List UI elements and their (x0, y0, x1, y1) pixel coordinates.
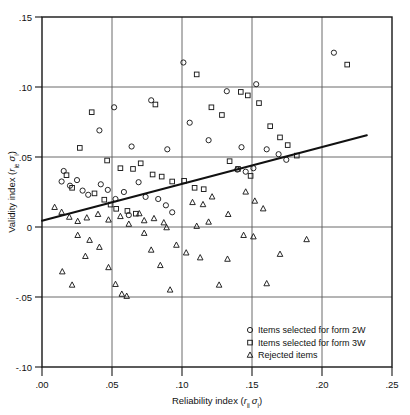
y-axis-tick-labels: -.10-.050.05.10.15 (16, 12, 32, 373)
y-tick-label: -.10 (16, 362, 32, 373)
data-point-circle (143, 194, 148, 199)
data-point-square (77, 146, 82, 151)
data-point-circle (165, 147, 170, 152)
data-point-square (227, 159, 232, 164)
y-tick-label: .05 (19, 152, 32, 163)
data-point-triangle (225, 256, 231, 261)
data-point-circle (97, 128, 102, 133)
x-tick-label: .10 (175, 379, 188, 390)
y-tick-label: .10 (19, 82, 32, 93)
data-point-triangle (106, 217, 112, 222)
data-point-square (153, 102, 158, 107)
data-point-triangle (87, 237, 93, 242)
data-point-square (92, 191, 97, 196)
data-point-triangle (174, 242, 180, 247)
data-point-triangle (158, 262, 164, 267)
data-point-circle (224, 89, 229, 94)
data-point-square (201, 187, 206, 192)
data-point-square (192, 185, 197, 190)
data-point-triangle (209, 194, 215, 199)
data-point-triangle (148, 247, 154, 252)
data-point-triangle (161, 220, 167, 225)
data-point-circle (74, 178, 79, 183)
data-point-circle (206, 138, 211, 143)
data-point-triangle (75, 232, 81, 237)
data-point-triangle (83, 253, 89, 258)
data-point-circle (239, 145, 244, 150)
x-tick-label: .15 (245, 379, 258, 390)
plot-frame (42, 17, 392, 367)
data-point-triangle (260, 206, 266, 211)
data-point-square (194, 72, 199, 77)
data-point-circle (276, 152, 281, 157)
data-point-triangle (119, 291, 125, 296)
y-tick-label: .15 (19, 12, 32, 23)
series-square (64, 62, 349, 216)
data-point-triangle (75, 218, 81, 223)
x-axis-title: Reliability index (rii σi) (172, 395, 262, 409)
data-point-triangle (151, 215, 157, 220)
data-point-triangle (183, 250, 189, 255)
data-point-triangle (52, 204, 58, 209)
data-point-square (131, 167, 136, 172)
data-point-triangle (113, 281, 119, 286)
data-point-circle (264, 147, 269, 152)
legend-label: Rejected items (258, 350, 318, 360)
series-circle (59, 50, 337, 218)
data-point-triangle (241, 232, 247, 237)
data-point-square (102, 197, 107, 202)
y-tick-label: -.05 (16, 292, 32, 303)
data-point-triangle (126, 221, 132, 226)
data-point-square (257, 101, 262, 106)
data-point-square (170, 179, 175, 184)
data-point-triangle (59, 209, 65, 214)
y-tick-label: 0 (27, 222, 32, 233)
data-point-triangle (251, 234, 257, 239)
data-point-square (278, 135, 283, 140)
data-point-triangle (264, 280, 270, 285)
data-point-triangle (243, 189, 249, 194)
data-point-triangle (118, 213, 124, 218)
legend-label: Items selected for form 2W (258, 325, 366, 335)
chart-canvas: .00.05.10.15.20.25 -.10-.050.05.10.15 It… (0, 0, 410, 415)
data-point-square (245, 93, 250, 98)
data-point-triangle (97, 244, 103, 249)
data-point-circle (59, 179, 64, 184)
data-point-triangle (304, 236, 310, 241)
data-point-triangle (206, 219, 212, 224)
data-point-triangle (69, 282, 75, 287)
data-point-triangle (167, 287, 173, 292)
data-point-circle (170, 210, 175, 215)
data-point-triangle (194, 223, 200, 228)
data-point-square (285, 143, 290, 148)
data-point-circle (105, 187, 110, 192)
y-axis-title: Validity index (rie σi) (6, 151, 20, 233)
data-point-circle (136, 180, 141, 185)
data-point-triangle (277, 251, 283, 256)
series-triangle (52, 189, 310, 299)
data-point-circle (98, 182, 103, 187)
data-point-circle (86, 192, 91, 197)
data-point-triangle (95, 211, 101, 216)
data-point-triangle (141, 230, 147, 235)
x-tick-label: .05 (105, 379, 118, 390)
data-point-square (118, 166, 123, 171)
gridlines (42, 17, 392, 367)
x-tick-label: .20 (315, 379, 328, 390)
data-point-square (150, 172, 155, 177)
legend-label: Items selected for form 3W (258, 338, 366, 348)
data-point-triangle (225, 211, 231, 216)
data-point-square (159, 174, 164, 179)
data-point-circle (331, 50, 336, 55)
data-point-triangle (197, 255, 203, 260)
data-point-circle (254, 82, 259, 87)
data-point-circle (243, 169, 248, 174)
chart-legend: Items selected for form 2WItems selected… (247, 325, 366, 360)
data-point-circle (156, 196, 161, 201)
scatter-chart-figure: .00.05.10.15.20.25 -.10-.050.05.10.15 It… (0, 0, 410, 415)
data-point-square (114, 206, 119, 211)
data-point-triangle (252, 198, 258, 203)
data-point-triangle (190, 199, 196, 204)
data-point-triangle (60, 269, 66, 274)
data-point-circle (129, 144, 134, 149)
